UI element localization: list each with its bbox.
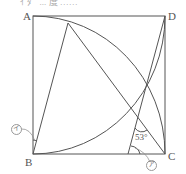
label-d: D <box>168 11 176 22</box>
label-a: A <box>23 11 31 22</box>
angle-label-a: ア <box>146 160 157 171</box>
angle-label-i: イ <box>11 124 22 135</box>
label-b: B <box>25 157 32 168</box>
angle-label-53: 53° <box>135 133 148 142</box>
segment-p-c <box>68 23 165 154</box>
label-c: C <box>168 151 175 162</box>
angle-arc-a <box>131 146 140 154</box>
geometry-figure <box>0 0 186 174</box>
segment-b-p <box>33 23 68 154</box>
